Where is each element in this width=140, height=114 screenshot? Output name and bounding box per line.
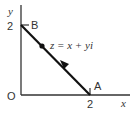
- segment-ab: [21, 25, 90, 95]
- y-axis-label: y: [7, 5, 13, 17]
- origin-label: O: [7, 90, 16, 102]
- z-label: z = x + yi: [49, 39, 93, 51]
- x-axis-label: x: [120, 97, 126, 109]
- point-b-label: B: [31, 19, 38, 31]
- x-tick-label: 2: [87, 98, 93, 110]
- y-tick-label: 2: [7, 20, 13, 32]
- point-z: [39, 43, 44, 48]
- point-a-label: A: [94, 80, 102, 92]
- argand-diagram: y 2 B z = x + yi A O 2 x: [0, 0, 140, 114]
